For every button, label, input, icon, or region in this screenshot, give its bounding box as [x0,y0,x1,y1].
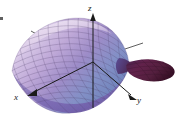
axis-label-y: y [137,96,141,105]
edge-artifact-mark [0,17,3,20]
surface-body-fill [12,18,129,113]
axis-label-z: z [88,4,92,13]
surface-plot-figure: z x y [0,0,181,128]
surface-plot-canvas [0,0,181,128]
axis-y-arrowhead [128,94,137,100]
surface-lobe-group [116,56,180,84]
surface-lobe [126,59,174,81]
axis-z-arrowhead [90,13,96,21]
axis-label-x: x [14,93,18,102]
